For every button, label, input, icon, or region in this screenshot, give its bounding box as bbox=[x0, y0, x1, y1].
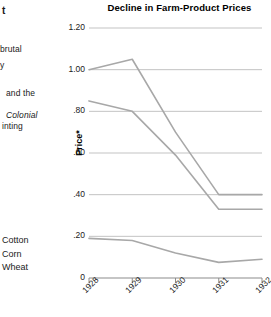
chart-figure: Decline in Farm-Product Prices Price* 0.… bbox=[58, 0, 271, 317]
plot-svg bbox=[58, 0, 271, 317]
y-tick-label: 0 bbox=[59, 272, 85, 282]
body-text-fragment: Colonial bbox=[6, 110, 38, 120]
y-tick-label: 1.00 bbox=[59, 64, 85, 74]
plot-area: 0.20.40.60.801.001.20 192819291930193119… bbox=[58, 0, 271, 317]
data-series-group bbox=[89, 59, 262, 262]
chart-legend: Cotton Corn Wheat bbox=[2, 234, 58, 275]
y-tick-label: 1.20 bbox=[59, 22, 85, 32]
legend-item-corn: Corn bbox=[2, 248, 58, 262]
y-tick-label: .60 bbox=[59, 147, 85, 157]
body-text-fragment: brutal bbox=[0, 44, 22, 54]
y-tick-label: .80 bbox=[59, 105, 85, 115]
series-line-corn bbox=[89, 101, 262, 209]
body-text-fragment: t bbox=[2, 6, 5, 16]
body-text-fragment: and the bbox=[6, 88, 35, 98]
series-line-cotton bbox=[89, 59, 262, 194]
body-text-fragment: y bbox=[0, 60, 4, 70]
y-tick-label: .20 bbox=[59, 230, 85, 240]
legend-item-cotton: Cotton bbox=[2, 234, 58, 248]
legend-item-wheat: Wheat bbox=[2, 261, 58, 275]
gridlines bbox=[89, 28, 262, 278]
y-tick-label: .40 bbox=[59, 189, 85, 199]
series-line-wheat bbox=[89, 238, 262, 262]
body-text-fragment: inting bbox=[2, 121, 23, 131]
